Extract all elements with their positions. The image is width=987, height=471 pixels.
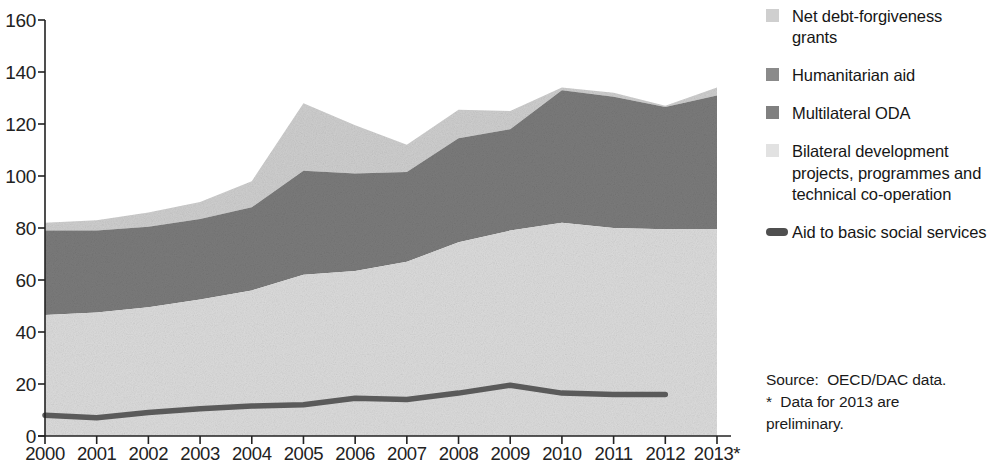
source-line-2: * Data for 2013 are	[766, 391, 987, 413]
y-axis-tick-label: 60	[2, 271, 36, 290]
legend-swatch-multilateral-oda	[766, 106, 779, 119]
legend-item-label: Aid to basic social services	[792, 222, 986, 243]
chart-legend: Net debt-forgiveness grantsHumanitarian …	[766, 6, 987, 260]
chart-figure: 020406080100120140160 200020012002200320…	[0, 0, 987, 471]
y-axis-tick-label: 40	[2, 323, 36, 342]
legend-swatch-net-debt-forgiveness	[766, 9, 779, 22]
plot-area: 020406080100120140160 200020012002200320…	[0, 0, 760, 471]
source-note: Source: OECD/DAC data. * Data for 2013 a…	[766, 369, 987, 435]
source-line-1: Source: OECD/DAC data.	[766, 369, 987, 391]
y-axis-tick-label: 140	[2, 63, 36, 82]
legend-item-label: Humanitarian aid	[792, 65, 915, 86]
stacked-area-plot	[0, 0, 760, 471]
legend-item-label: Multilateral ODA	[792, 103, 911, 124]
y-axis-tick-label: 120	[2, 115, 36, 134]
y-axis-tick-label: 160	[2, 11, 36, 30]
legend-item: Humanitarian aid	[766, 65, 987, 86]
y-axis-ticks	[38, 20, 45, 436]
source-line-3: preliminary.	[766, 413, 987, 435]
legend-item: Multilateral ODA	[766, 103, 987, 124]
x-axis-tick-labels: 2000200120022003200420052006200720082009…	[0, 444, 760, 471]
x-axis-tick-label: 2013*	[687, 444, 747, 464]
legend-item-label: Net debt-forgiveness grants	[792, 6, 987, 48]
legend-item: Net debt-forgiveness grants	[766, 6, 987, 48]
y-axis-tick-label: 20	[2, 375, 36, 394]
y-axis-tick-label: 100	[2, 167, 36, 186]
legend-swatch-bilateral-development	[766, 144, 779, 157]
y-axis-tick-labels: 020406080100120140160	[0, 0, 36, 471]
y-axis-tick-label: 80	[2, 219, 36, 238]
legend-item-label: Bilateral development projects, programm…	[792, 141, 987, 204]
legend-swatch-aid-basic-social-services	[766, 228, 788, 236]
legend-item: Aid to basic social services	[766, 222, 987, 243]
legend-item: Bilateral development projects, programm…	[766, 141, 987, 204]
legend-swatch-humanitarian-aid	[766, 68, 779, 81]
